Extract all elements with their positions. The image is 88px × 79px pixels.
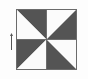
pinwheel-canvas [0,0,88,79]
left-edge-tick-marker [10,33,13,50]
tick-line [11,35,12,50]
tick-marker-glyph [10,33,13,50]
pinwheel-svg [17,10,76,69]
pinwheel-block [16,9,77,70]
